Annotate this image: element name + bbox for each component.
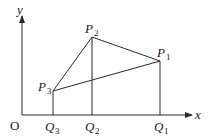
svg-text:2: 2 bbox=[95, 126, 100, 136]
svg-text:2: 2 bbox=[94, 28, 99, 38]
svg-text:3: 3 bbox=[55, 126, 60, 136]
label-q2: Q 2 bbox=[85, 119, 100, 136]
svg-text:1: 1 bbox=[164, 126, 169, 136]
label-q1: Q 1 bbox=[154, 119, 169, 136]
y-axis-label: y bbox=[15, 2, 23, 17]
svg-text:1: 1 bbox=[166, 52, 171, 62]
svg-text:P: P bbox=[37, 79, 46, 94]
x-axis-label: x bbox=[194, 107, 201, 122]
segment-p3-p2 bbox=[53, 37, 92, 91]
svg-text:P: P bbox=[156, 45, 165, 60]
label-p3: P 3 bbox=[37, 79, 52, 96]
segment-p1-p3 bbox=[53, 61, 160, 91]
label-q3: Q 3 bbox=[45, 119, 60, 136]
label-p2: P 2 bbox=[84, 21, 99, 38]
svg-text:Q: Q bbox=[85, 119, 95, 134]
segment-p2-p1 bbox=[92, 37, 160, 61]
origin-label: O bbox=[10, 118, 19, 133]
coordinate-diagram: y x O P 2 P 1 P 3 Q 3 Q 2 Q 1 bbox=[0, 0, 213, 140]
svg-text:Q: Q bbox=[154, 119, 164, 134]
svg-text:Q: Q bbox=[45, 119, 55, 134]
label-p1: P 1 bbox=[156, 45, 171, 62]
svg-text:P: P bbox=[84, 21, 93, 36]
svg-text:3: 3 bbox=[47, 86, 52, 96]
